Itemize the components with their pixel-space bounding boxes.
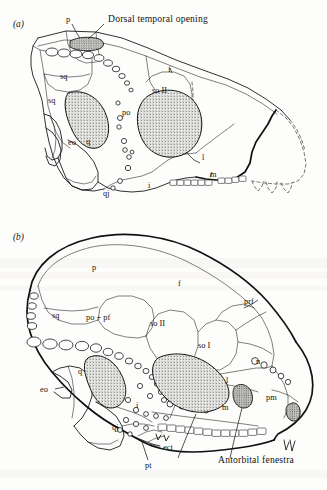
leader-l-a (186, 152, 200, 163)
label-n-b: n (256, 357, 261, 366)
maxillary-tooth-row-a (170, 176, 246, 185)
label-m-b: m (222, 403, 229, 412)
leader-eo-b (55, 387, 64, 389)
label-sq-upper-a: sq (60, 72, 68, 81)
label-po-a: po (122, 108, 130, 117)
label-sq-b: sq (52, 311, 60, 320)
label-pm-b: pm (266, 393, 277, 402)
label-so-i-b: so I (198, 341, 211, 350)
antorbital-fenestra-b (233, 384, 253, 408)
label-eo-a: eo (68, 138, 76, 147)
label-q-b: q (78, 367, 83, 376)
maxillary-tooth-row-b (158, 424, 266, 436)
label-so-ii-a: so II (152, 86, 167, 95)
external-naris-b (286, 403, 300, 421)
orbit-b (153, 354, 229, 412)
label-m-a: m (210, 170, 217, 179)
figure-container: (a) Dorsal temporal opening p sq sq f so… (0, 0, 327, 490)
callout-antorbital-fenestra: Antorbital fenestra (218, 454, 295, 465)
label-prf-b: prf (244, 297, 254, 306)
label-pt-b: pt (145, 461, 152, 470)
label-l-a: l (202, 153, 205, 162)
label-qj-b: qj (112, 423, 119, 432)
label-eo-b: eo (40, 385, 48, 394)
label-f-b: f (178, 279, 181, 288)
label-po-pf-b: po + pf (86, 313, 110, 322)
label-i-a: i (148, 181, 151, 190)
panel-b-id: (b) (13, 232, 24, 243)
dorsal-temporal-opening-a (70, 37, 104, 50)
label-f-a: f (168, 65, 171, 74)
label-p-a: p (66, 15, 70, 24)
label-ect-b: ect (163, 443, 173, 452)
callout-dorsal-temporal-opening: Dorsal temporal opening (108, 13, 208, 24)
label-qj-a: qj (103, 189, 110, 198)
label-p-b: p (92, 263, 96, 272)
label-so-ii-b: so II (150, 319, 165, 328)
label-sq-lower-a: sq (48, 96, 56, 105)
label-l-b: l (226, 376, 229, 385)
orbit-a (137, 90, 201, 157)
panel-a-skull-diagram: (a) Dorsal temporal opening p sq sq f so… (0, 0, 327, 218)
panel-b-skull-diagram: (b) p f sq po + pf so II so I prf n q eo… (0, 218, 327, 490)
panel-a-id: (a) (13, 19, 24, 30)
